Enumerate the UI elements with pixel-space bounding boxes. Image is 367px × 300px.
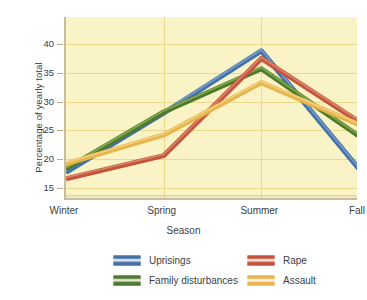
y-axis-title: Percentage of yearly total [33, 28, 44, 208]
legend-swatch-icon [113, 255, 141, 266]
legend-label: Assault [283, 275, 316, 286]
line-chart-figure: Percentage of yearly total 152025303540 … [0, 0, 367, 300]
legend-swatch-icon [247, 275, 275, 286]
legend-label: Uprisings [149, 255, 191, 266]
y-tick-label-35: 35 [43, 68, 54, 78]
legend-item-rape[interactable]: Rape [247, 252, 307, 268]
x-tick-label-fall: Fall [349, 205, 365, 216]
legend-swatch-icon [247, 255, 275, 266]
plot-area [64, 17, 357, 200]
legend-item-uprisings[interactable]: Uprisings [113, 252, 191, 268]
y-tick-label-15: 15 [43, 183, 54, 193]
series-lines [66, 17, 357, 200]
x-axis-title: Season [0, 225, 367, 236]
y-tick-mark-30 [57, 102, 63, 103]
y-tick-mark-20 [57, 159, 63, 160]
x-tick-label-spring: Spring [147, 205, 176, 216]
y-tick-label-30: 30 [43, 97, 54, 107]
legend-label: Rape [283, 255, 307, 266]
chart-legend: UprisingsFamily disturbancesRapeAssault [0, 250, 367, 296]
x-tick-label-summer: Summer [240, 205, 278, 216]
legend-swatch-icon [113, 275, 141, 286]
legend-item-assault[interactable]: Assault [247, 272, 316, 288]
y-tick-label-20: 20 [43, 154, 54, 164]
x-tick-label-winter: Winter [50, 205, 79, 216]
y-tick-mark-15 [57, 188, 63, 189]
y-tick-label-25: 25 [43, 125, 54, 135]
y-tick-mark-40 [57, 44, 63, 45]
y-tick-mark-35 [57, 73, 63, 74]
legend-item-family-disturbances[interactable]: Family disturbances [113, 272, 238, 288]
y-tick-label-40: 40 [43, 39, 54, 49]
y-tick-mark-25 [57, 130, 63, 131]
legend-label: Family disturbances [149, 275, 238, 286]
series-line-rape [66, 58, 357, 178]
